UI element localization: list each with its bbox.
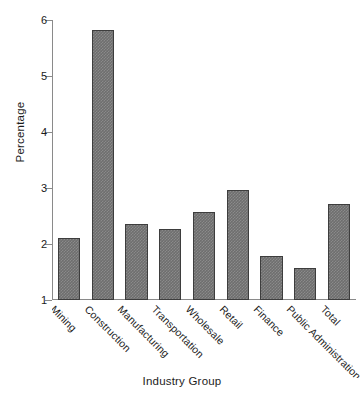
category-label: Mining <box>52 303 79 334</box>
y-axis-title: Percentage <box>14 72 26 192</box>
bar <box>294 268 316 300</box>
category-label: Finance <box>251 303 286 338</box>
y-tick-label: 5 <box>41 71 47 82</box>
y-tick-label: 2 <box>41 239 47 250</box>
bar <box>125 224 147 300</box>
y-tick-label: 3 <box>41 183 47 194</box>
x-axis-category-labels: MiningConstructionManufacturingTransport… <box>52 303 364 378</box>
plot-area: 123456 <box>52 20 356 300</box>
bar <box>260 256 282 300</box>
y-tick-label: 6 <box>41 15 47 26</box>
category-label: Total <box>319 303 344 328</box>
bar <box>58 238 80 300</box>
y-tick-label: 4 <box>41 127 47 138</box>
bar <box>328 204 350 300</box>
x-axis-title: Industry Group <box>0 375 364 387</box>
bar <box>193 212 215 300</box>
bar <box>227 190 249 300</box>
category-label: Retail <box>217 303 245 331</box>
bar <box>92 30 114 300</box>
bar <box>159 229 181 300</box>
y-axis-line <box>52 20 53 300</box>
y-tick-label: 1 <box>41 295 47 306</box>
bar-chart: Percentage 123456 MiningConstructionManu… <box>0 0 364 406</box>
